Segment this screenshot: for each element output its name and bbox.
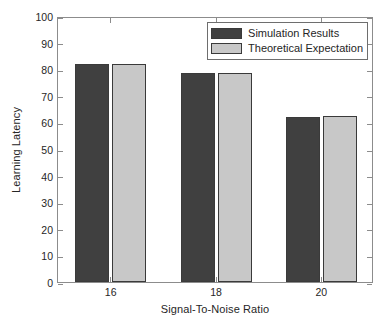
y-tick-mark xyxy=(58,44,63,45)
y-tick-mark-right xyxy=(367,284,372,285)
x-tick-mark xyxy=(216,277,217,282)
y-tick-mark xyxy=(58,18,63,19)
legend-label: Theoretical Expectation xyxy=(248,43,363,54)
y-tick-label: 50 xyxy=(41,144,53,156)
y-tick-mark-right xyxy=(367,151,372,152)
y-tick-label: 0 xyxy=(47,277,53,289)
y-tick-mark xyxy=(58,97,63,98)
legend-label: Simulation Results xyxy=(248,28,339,39)
y-tick-mark-right xyxy=(367,204,372,205)
y-tick-mark-right xyxy=(367,71,372,72)
x-tick-label: 16 xyxy=(91,286,131,298)
bar-chart-figure: 0102030405060708090100 161820 Simulation… xyxy=(0,0,389,324)
y-tick-label: 70 xyxy=(41,91,53,103)
y-tick-label: 40 xyxy=(41,171,53,183)
y-axis-title: Learning Latency xyxy=(10,17,24,283)
y-tick-mark-right xyxy=(367,124,372,125)
y-tick-mark-right xyxy=(367,230,372,231)
y-tick-mark-right xyxy=(367,257,372,258)
y-tick-label: 20 xyxy=(41,224,53,236)
y-tick-mark xyxy=(58,230,63,231)
chart-legend: Simulation ResultsTheoretical Expectatio… xyxy=(207,22,368,60)
bar xyxy=(286,117,320,282)
legend-item: Theoretical Expectation xyxy=(211,41,363,56)
y-tick-mark-right xyxy=(367,97,372,98)
y-tick-mark xyxy=(58,204,63,205)
bar xyxy=(181,73,215,282)
x-axis-title: Signal-To-Noise Ratio xyxy=(57,303,373,315)
x-tick-mark xyxy=(110,277,111,282)
y-tick-mark-right xyxy=(367,177,372,178)
y-tick-label: 60 xyxy=(41,117,53,129)
x-tick-mark xyxy=(321,277,322,282)
bar xyxy=(218,73,252,282)
y-tick-mark-right xyxy=(367,18,372,19)
y-tick-mark xyxy=(58,177,63,178)
y-tick-mark xyxy=(58,124,63,125)
y-tick-label: 10 xyxy=(41,250,53,262)
y-tick-label: 80 xyxy=(41,64,53,76)
y-tick-mark xyxy=(58,71,63,72)
y-tick-label: 90 xyxy=(41,38,53,50)
x-tick-label: 20 xyxy=(301,286,341,298)
legend-item: Simulation Results xyxy=(211,26,363,41)
bar xyxy=(323,116,357,282)
bar xyxy=(75,64,109,282)
x-tick-mark-top xyxy=(110,18,111,23)
plot-area: 0102030405060708090100 161820 Simulation… xyxy=(57,17,373,283)
y-tick-mark xyxy=(58,257,63,258)
y-tick-mark xyxy=(58,284,63,285)
bar xyxy=(112,64,146,282)
y-tick-mark xyxy=(58,151,63,152)
x-tick-label: 18 xyxy=(196,286,236,298)
legend-swatch xyxy=(211,43,242,54)
y-tick-label: 30 xyxy=(41,197,53,209)
legend-swatch xyxy=(211,28,242,39)
y-tick-label: 100 xyxy=(35,11,53,23)
